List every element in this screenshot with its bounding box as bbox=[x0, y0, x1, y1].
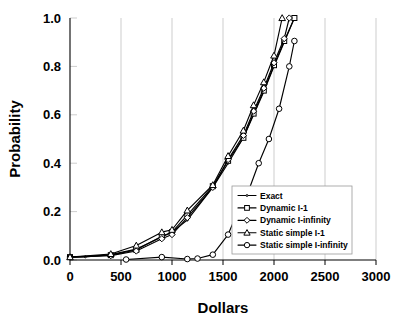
y-tick-label-0-8: 0.8 bbox=[43, 59, 61, 74]
x-tick-label-2500: 2500 bbox=[311, 269, 340, 284]
legend-item-label: Exact bbox=[260, 191, 283, 201]
data-point-marker bbox=[210, 252, 216, 258]
x-axis-title: Dollars bbox=[198, 299, 249, 316]
data-point-marker bbox=[266, 136, 272, 142]
data-point-marker bbox=[256, 160, 262, 166]
data-point-marker bbox=[225, 232, 231, 238]
legend-item-label: Static simple I-infinity bbox=[260, 240, 348, 250]
y-tick-label-0-2: 0.2 bbox=[43, 204, 61, 219]
chart-legend[interactable]: ExactDynamic I-1Dynamic I-infinityStatic… bbox=[232, 186, 352, 254]
legend-marker-none-icon bbox=[246, 195, 248, 197]
y-tick-label-1: 1.0 bbox=[43, 11, 61, 26]
legend-marker-circle-icon bbox=[244, 242, 249, 247]
data-point-marker bbox=[185, 256, 191, 262]
x-tick-label-1000: 1000 bbox=[158, 269, 187, 284]
x-tick-label-3000: 3000 bbox=[362, 269, 391, 284]
data-point-marker bbox=[123, 257, 129, 263]
y-tick-label-0: 0.0 bbox=[43, 253, 61, 268]
data-point-marker bbox=[276, 106, 282, 112]
data-point-marker bbox=[292, 38, 298, 44]
x-tick-label-1500: 1500 bbox=[209, 269, 238, 284]
probability-vs-dollars-chart: 050010001500200025003000 0.00.20.40.60.8… bbox=[0, 0, 401, 325]
y-tick-label-0-6: 0.6 bbox=[43, 107, 61, 122]
x-tick-label-2000: 2000 bbox=[260, 269, 289, 284]
legend-item-label: Static simple I-1 bbox=[260, 228, 325, 238]
legend-marker-square-icon bbox=[245, 206, 250, 211]
legend-item-label: Dynamic I-infinity bbox=[260, 215, 331, 225]
data-point-marker bbox=[159, 254, 165, 260]
chart-figure: 050010001500200025003000 0.00.20.40.60.8… bbox=[0, 0, 401, 325]
x-tick-label-500: 500 bbox=[110, 269, 132, 284]
y-axis-title: Probability bbox=[6, 100, 23, 178]
data-point-marker bbox=[195, 256, 201, 262]
legend-item-label: Dynamic I-1 bbox=[260, 203, 308, 213]
x-tick-label-0: 0 bbox=[66, 269, 73, 284]
data-point-marker bbox=[287, 64, 293, 70]
y-tick-label-0-4: 0.4 bbox=[43, 156, 62, 171]
